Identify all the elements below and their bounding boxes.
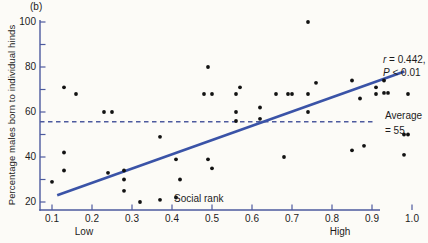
data-point bbox=[314, 81, 318, 85]
y-tick-label: 40 bbox=[10, 151, 36, 162]
data-point bbox=[158, 198, 162, 202]
data-point bbox=[306, 92, 310, 96]
data-point bbox=[210, 166, 214, 170]
data-point bbox=[62, 151, 66, 155]
data-point bbox=[406, 133, 410, 137]
data-point bbox=[234, 119, 238, 123]
average-annotation-line1: Average bbox=[385, 111, 422, 122]
data-point bbox=[290, 92, 294, 96]
x-axis-title: Social rank bbox=[174, 194, 223, 205]
x-tick-label: 0.5 bbox=[202, 213, 222, 224]
data-point bbox=[286, 92, 290, 96]
data-point bbox=[138, 200, 142, 204]
x-tick-label: 0.3 bbox=[122, 213, 142, 224]
data-point bbox=[362, 144, 366, 148]
data-point bbox=[274, 92, 278, 96]
data-point bbox=[234, 92, 238, 96]
data-point bbox=[374, 85, 378, 89]
x-axis-high-label: High bbox=[325, 227, 355, 238]
data-point bbox=[206, 65, 210, 69]
r-value: = 0.442, bbox=[386, 54, 425, 65]
x-tick-label: 0.6 bbox=[242, 213, 262, 224]
data-point bbox=[178, 178, 182, 182]
data-point bbox=[382, 79, 386, 83]
x-tick-label: 0.2 bbox=[82, 213, 102, 224]
x-tick-label: 0.7 bbox=[282, 213, 302, 224]
trend-line bbox=[57, 72, 404, 196]
correlation-annotation-line1: r = 0.442, bbox=[383, 55, 426, 66]
y-tick-label: 20 bbox=[10, 196, 36, 207]
data-point bbox=[62, 169, 66, 173]
data-point bbox=[110, 110, 114, 114]
data-point bbox=[306, 20, 310, 24]
data-point bbox=[74, 92, 78, 96]
data-point bbox=[258, 117, 262, 121]
correlation-annotation-line2: P < 0.01 bbox=[383, 68, 421, 79]
average-annotation-line2: = 55 bbox=[385, 126, 405, 137]
data-point bbox=[382, 91, 386, 95]
data-point bbox=[122, 189, 126, 193]
data-point bbox=[210, 92, 214, 96]
data-point bbox=[202, 92, 206, 96]
plot-canvas bbox=[0, 0, 428, 243]
scatter-plot-figure: (b) Percentage males born to individual … bbox=[0, 0, 428, 243]
x-tick-label: 0.8 bbox=[322, 213, 342, 224]
data-point bbox=[122, 169, 126, 173]
data-point bbox=[282, 155, 286, 159]
data-point bbox=[374, 92, 378, 96]
x-tick-label: 0.1 bbox=[42, 213, 62, 224]
data-point bbox=[106, 171, 110, 175]
data-point bbox=[102, 110, 106, 114]
y-tick-label: 80 bbox=[10, 61, 36, 72]
data-point bbox=[386, 91, 390, 95]
p-symbol: P bbox=[383, 67, 390, 78]
data-point bbox=[350, 79, 354, 83]
data-point bbox=[402, 153, 406, 157]
panel-label: (b) bbox=[30, 2, 42, 13]
data-point bbox=[50, 180, 54, 184]
data-point bbox=[206, 157, 210, 161]
x-tick-label: 0.4 bbox=[162, 213, 182, 224]
data-point bbox=[158, 135, 162, 139]
data-point bbox=[258, 106, 262, 110]
data-point bbox=[358, 97, 362, 101]
data-point bbox=[406, 92, 410, 96]
data-point bbox=[350, 148, 354, 152]
data-point bbox=[306, 110, 310, 114]
p-value: < 0.01 bbox=[390, 67, 421, 78]
data-point bbox=[122, 178, 126, 182]
y-tick-label: 60 bbox=[10, 106, 36, 117]
x-axis-low-label: Low bbox=[70, 227, 98, 238]
data-point bbox=[62, 85, 66, 89]
data-point bbox=[234, 110, 238, 114]
y-tick-label: 100 bbox=[10, 16, 36, 27]
data-point bbox=[174, 157, 178, 161]
x-tick-label: 0.9 bbox=[362, 213, 382, 224]
x-tick-label: 1.0 bbox=[402, 213, 422, 224]
data-point bbox=[238, 85, 242, 89]
